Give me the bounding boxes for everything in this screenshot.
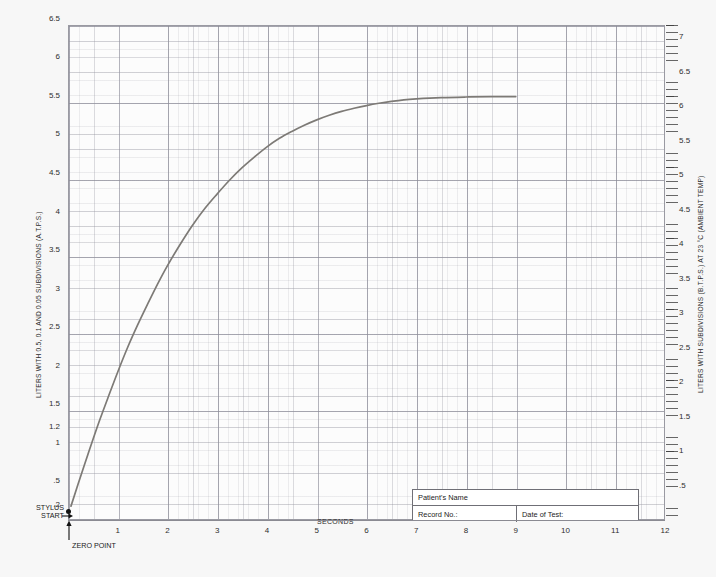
y-axis-left-tick-label: 3 <box>26 285 60 293</box>
x-axis-tick-label: 4 <box>252 527 282 535</box>
y-axis-right-tick-label: 4.5 <box>679 206 707 214</box>
y-axis-left-tick-label: 5.5 <box>26 92 60 100</box>
x-axis-tick-label: 8 <box>451 527 481 535</box>
x-axis-tick-label: 11 <box>600 527 630 535</box>
y-axis-left-tick-label: 4.5 <box>26 169 60 177</box>
form-row-patient-name: Patient's Name <box>413 490 638 506</box>
spirogram-curve <box>71 97 516 507</box>
y-axis-left-tick-label: 6 <box>26 53 60 61</box>
zero-point-arrow-icon <box>64 518 74 540</box>
chart-sheet: LITERS WITH 0.5, 0.1 AND 0.05 SUBDIVISIO… <box>0 0 716 577</box>
y-axis-right-tick-label: 3 <box>679 309 707 317</box>
y-axis-right-tick-label: 6.5 <box>679 68 707 76</box>
patient-info-form: Patient's Name Record No.: Date of Test: <box>412 489 639 521</box>
y-axis-left-tick-label: 3.5 <box>26 246 60 254</box>
y-axis-left-tick-label: .5 <box>26 477 60 485</box>
y-axis-right-tick-label: 4 <box>679 240 707 248</box>
y-axis-left-tick-label: 2.5 <box>26 323 60 331</box>
y-axis-right-tick-label: 7 <box>679 33 707 41</box>
x-axis-tick-label: 1 <box>103 527 133 535</box>
zero-point-label: ZERO POINT <box>72 541 116 550</box>
x-axis-tick-label: 5 <box>302 527 332 535</box>
y-axis-right-tick-label: 3.5 <box>679 275 707 283</box>
stylus-start-point <box>66 509 71 514</box>
y-axis-right-tick-label: 1.5 <box>679 413 707 421</box>
y-axis-right-tick-label: 2 <box>679 378 707 386</box>
y-axis-left-tick-label: 6.5 <box>26 15 60 23</box>
y-axis-right-tick-label: 5.5 <box>679 137 707 145</box>
x-axis-tick-label: 12 <box>650 527 680 535</box>
x-axis-tick-label: 10 <box>551 527 581 535</box>
x-axis-tick-label: 7 <box>401 527 431 535</box>
x-axis-tick-label: 9 <box>501 527 531 535</box>
y-axis-left-tick-label: 2 <box>26 362 60 370</box>
y-axis-left-title: LITERS WITH 0.5, 0.1 AND 0.05 SUBDIVISIO… <box>35 211 42 398</box>
spirogram-curve-layer <box>68 25 665 520</box>
y-axis-left-tick-label: 4 <box>26 208 60 216</box>
x-axis-tick-label: 2 <box>153 527 183 535</box>
y-axis-left-tick-label: .2 <box>26 501 60 509</box>
y-axis-left-tick-label: 5 <box>26 130 60 138</box>
stylus-start-line-2: START <box>8 512 64 520</box>
x-axis-tick-label: 6 <box>352 527 382 535</box>
y-axis-right-tick-label: 5 <box>679 171 707 179</box>
x-axis-baseline <box>68 520 665 521</box>
y-axis-left-tick-label: 1 <box>26 439 60 447</box>
x-axis-tick-label: 3 <box>202 527 232 535</box>
y-axis-right-tick-label: 1 <box>679 447 707 455</box>
y-axis-left-tick-label: 1.5 <box>26 400 60 408</box>
y-axis-left-tick-label: 1.2 <box>26 423 60 431</box>
right-ruler-major-ticks <box>666 25 674 520</box>
patient-name-field[interactable]: Patient's Name <box>413 490 638 505</box>
y-axis-right-tick-label: 6 <box>679 102 707 110</box>
y-axis-right-tick-label: 2.5 <box>679 344 707 352</box>
y-axis-right-tick-label: .5 <box>679 482 707 490</box>
